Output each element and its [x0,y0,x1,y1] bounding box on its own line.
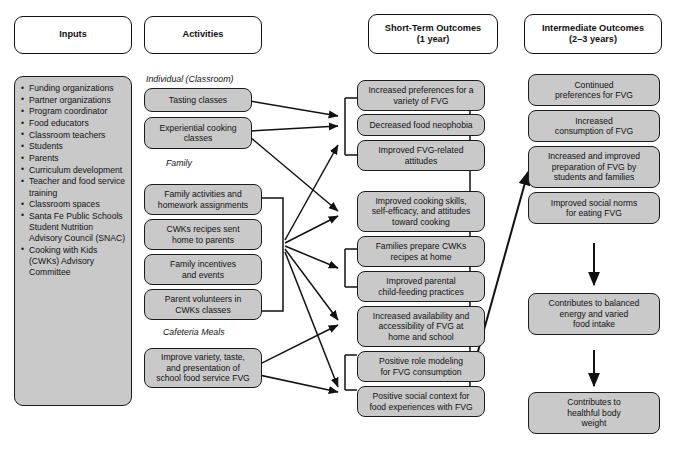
arrow-cooking-to-st1 [250,126,338,131]
short-term-box-improved-fvg-attitudes: Improved FVG-related attitudes [357,140,485,171]
column-header-short-term: Short-Term Outcomes (1 year) [368,14,498,54]
column-header-intermediate-sub: (2–3 years) [569,34,617,46]
activity-box-family-incentives-events: Family incentives and events [144,254,262,285]
list-item: Santa Fe Public Schools Student Nutritio… [21,211,126,245]
activity-box-tasting-classes: Tasting classes [144,88,252,112]
list-item: Parents [21,153,126,164]
bracket-family-top [262,198,283,243]
arrow-tasting-to-st1 [250,101,338,116]
list-item: Funding organizations [21,83,126,94]
arrow-family-to-st89 [285,252,338,387]
activity-box-cwks-recipes-home: CWKs recipes sent home to parents [144,219,262,250]
intermediate-box-healthful-body-weight: Contributes to healthful body weight [528,392,660,434]
list-item: Program coordinator [21,106,126,117]
column-header-short-term-sub: (1 year) [417,34,450,46]
activity-box-family-activities-homework: Family activities and homework assignmen… [144,184,262,215]
column-header-inputs: Inputs [14,16,132,54]
arrow-cafeteria-to-st7 [250,325,338,369]
activities-group-label-family: Family [166,158,192,168]
list-item: Partner organizations [21,95,126,106]
bracket-family-bottom [262,243,283,311]
arrow-cooking-to-st4 [250,137,338,211]
list-item: Cooking with Kids (CWKs) Advisory Commit… [21,245,126,279]
intermediate-box-increased-preparation: Increased and improved preparation of FV… [528,146,660,188]
inputs-list: Funding organizations Partner organizati… [21,83,126,278]
list-item: Classroom teachers [21,130,126,141]
list-item: Students [21,141,126,152]
arrow-family-to-st1 [285,145,338,240]
short-term-box-positive-social-context: Positive social context for food experie… [357,386,485,417]
arrow-family-to-st4 [285,216,338,243]
short-term-box-families-prepare-recipes: Families prepare CWKs recipes at home [357,236,485,267]
intermediate-box-increased-consumption: Increased consumption of FVG [528,110,660,142]
arrow-family-to-st56 [285,246,338,268]
list-item: Classroom spaces [21,199,126,210]
column-header-intermediate-label: Intermediate Outcomes [542,23,644,35]
inputs-panel: Funding organizations Partner organizati… [14,76,132,406]
column-header-intermediate: Intermediate Outcomes (2–3 years) [524,14,662,54]
short-term-box-decreased-neophobia: Decreased food neophobia [357,114,485,136]
short-term-box-increased-preferences: Increased preferences for a variety of F… [357,80,485,111]
arrow-cafeteria-to-st89 [250,373,338,392]
activity-box-experiential-cooking-classes: Experiential cooking classes [144,117,252,149]
list-item: Food educators [21,118,126,129]
activities-group-label-cafeteria: Cafeteria Meals [163,327,225,337]
list-item: Curriculum development [21,165,126,176]
activities-group-label-individual: Individual (Classroom) [146,74,234,84]
column-header-activities: Activities [144,16,262,54]
list-item: Teacher and food service training [21,176,126,198]
short-term-box-improved-cooking-skills: Improved cooking skills, self-efficacy, … [357,191,485,232]
arrow-family-to-st7 [285,249,338,320]
intermediate-box-improved-social-norms: Improved social norms for eating FVG [528,192,660,224]
short-term-box-positive-role-modeling: Positive role modeling for FVG consumpti… [357,351,485,382]
activity-box-improve-variety-taste-presentation: Improve variety, taste, and presentation… [144,348,262,388]
short-term-box-increased-availability: Increased availability and accessibility… [357,306,485,347]
column-header-short-term-label: Short-Term Outcomes [385,23,481,35]
column-header-activities-label: Activities [183,29,224,41]
short-term-box-improved-parental-practices: Improved parental child-feeding practice… [357,271,485,302]
logic-model-diagram: Inputs Activities Short-Term Outcomes (1… [0,0,673,452]
column-header-inputs-label: Inputs [59,29,87,41]
activity-box-parent-volunteers: Parent volunteers in CWKs classes [144,289,262,320]
intermediate-box-balanced-energy: Contributes to balanced energy and varie… [528,293,660,335]
intermediate-box-continued-preferences: Continued preferences for FVG [528,74,660,106]
